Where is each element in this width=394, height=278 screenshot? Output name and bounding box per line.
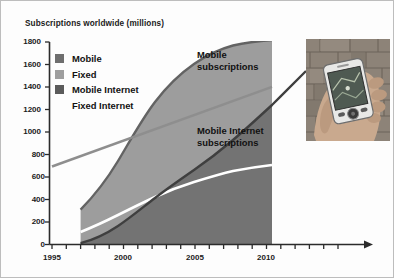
x-tick-label: 1995	[34, 253, 70, 262]
y-tick-label: 1400	[15, 82, 41, 91]
x-axis-ticks	[52, 245, 338, 250]
x-tick-label: 2010	[248, 253, 284, 262]
y-tick-label: 800	[19, 150, 45, 159]
legend-label-fixed: Fixed	[72, 69, 97, 80]
chart-figure: Subscriptions worldwide (millions)	[0, 0, 394, 278]
annotation-mobile-internet-line2: subscriptions	[197, 137, 264, 149]
legend-item-fixed[interactable]: Fixed	[55, 67, 139, 83]
annotation-mobile-line1: Mobile	[197, 49, 258, 61]
y-tick-label: 1200	[15, 105, 41, 114]
annotation-mobile-internet-line1: Mobile Internet	[197, 125, 264, 137]
annotation-mobile-subscriptions: Mobile subscriptions	[197, 49, 258, 72]
y-tick-label: 1800	[15, 37, 41, 46]
legend-label-fixed-internet: Fixed Internet	[72, 100, 133, 111]
chart-legend: Mobile Fixed Mobile Internet Fixed Inter…	[55, 51, 139, 113]
x-tick-label: 2005	[177, 253, 213, 262]
legend-swatch-fixed	[55, 70, 64, 79]
y-tick-label: 0	[19, 240, 45, 249]
legend-swatch-mobile	[55, 54, 64, 63]
legend-item-fixed-internet[interactable]: Fixed Internet	[55, 98, 139, 114]
legend-item-mobile-internet[interactable]: Mobile Internet	[55, 82, 139, 98]
legend-swatch-mobile-internet	[55, 85, 64, 94]
y-tick-label: 400	[19, 195, 45, 204]
legend-swatch-fixed-internet	[55, 101, 64, 110]
legend-label-mobile-internet: Mobile Internet	[72, 84, 139, 95]
legend-item-mobile[interactable]: Mobile	[55, 51, 139, 67]
y-tick-label: 600	[19, 172, 45, 181]
annotation-mobile-internet-subscriptions: Mobile Internet subscriptions	[197, 125, 264, 148]
x-axis-arrow-icon	[364, 241, 373, 249]
annotation-mobile-line2: subscriptions	[197, 61, 258, 73]
inset-photo-pda-phone	[306, 39, 390, 141]
x-tick-label: 2000	[105, 253, 141, 262]
legend-label-mobile: Mobile	[72, 53, 102, 64]
y-tick-label: 1000	[15, 127, 41, 136]
y-tick-label: 200	[19, 217, 45, 226]
y-tick-label: 1600	[15, 60, 41, 69]
